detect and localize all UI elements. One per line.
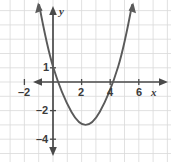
y-tick-label-neg2: –2	[36, 105, 48, 116]
coordinate-graph-figure: –2 2 4 6 1 –2 –4 x y	[0, 0, 171, 162]
x-axis-left-arrowhead	[33, 78, 42, 86]
x-axis-label: x	[151, 87, 157, 98]
y-tick-label-1: 1	[43, 62, 49, 73]
x-tick-label-4: 4	[107, 87, 113, 98]
y-axis-down-arrowhead	[49, 147, 57, 156]
parabola-left-arrowhead	[35, 3, 42, 14]
graph-canvas	[0, 0, 171, 162]
x-tick-label-6: 6	[136, 87, 142, 98]
parabola-right-arrowhead	[129, 3, 136, 14]
grid-lines	[0, 0, 171, 162]
x-tick-label-2: 2	[78, 87, 84, 98]
y-axis	[49, 6, 57, 156]
y-axis-label: y	[59, 6, 64, 17]
y-tick-label-neg4: –4	[36, 134, 48, 145]
x-tick-label-neg2: –2	[18, 87, 30, 98]
parabola-curve	[35, 3, 136, 125]
x-axis-right-arrowhead	[159, 78, 168, 86]
